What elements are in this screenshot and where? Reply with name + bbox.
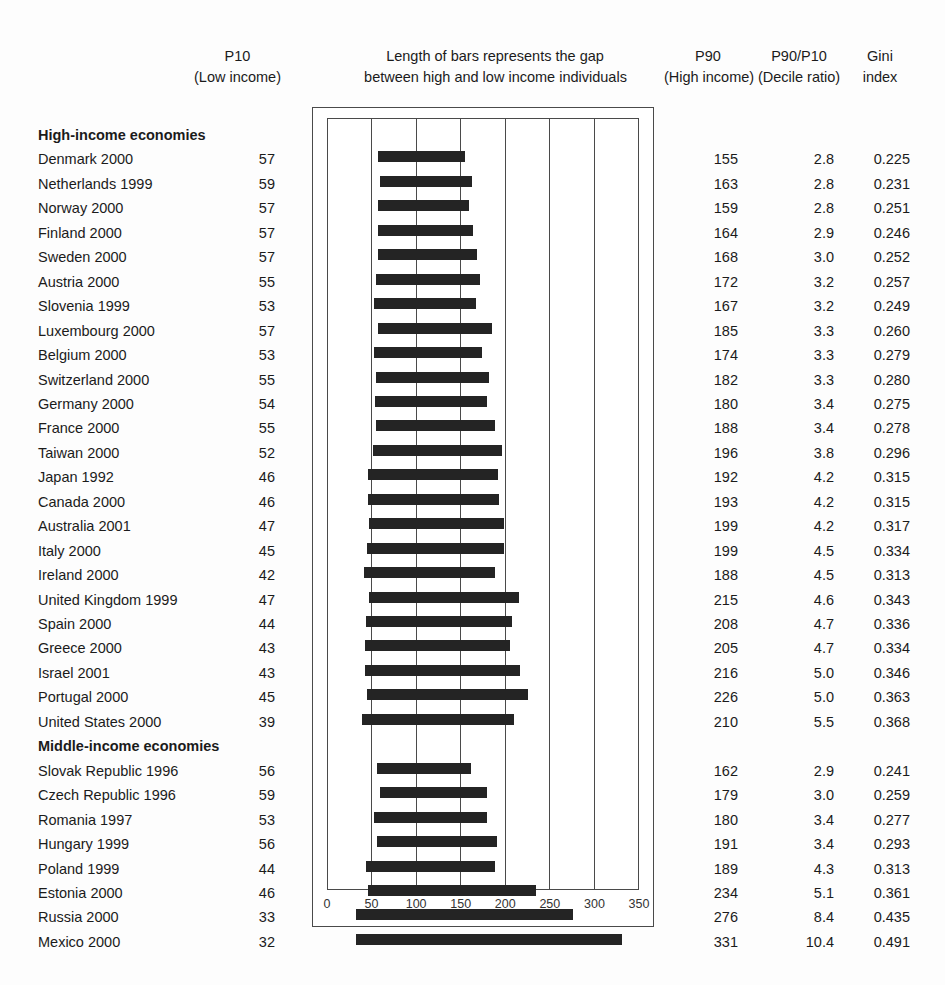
cell-gini-index: 0.252 — [848, 250, 910, 265]
cell-p10: 39 — [200, 715, 275, 730]
cell-gini-index: 0.231 — [848, 177, 910, 192]
cell-decile-ratio: 3.2 — [762, 275, 834, 290]
bar-range — [378, 225, 473, 236]
bar-range — [376, 372, 489, 383]
cell-p10: 46 — [200, 470, 275, 485]
cell-gini-index: 0.225 — [848, 152, 910, 167]
cell-decile-ratio: 3.3 — [762, 373, 834, 388]
cell-p90: 331 — [680, 935, 738, 950]
cell-gini-index: 0.313 — [848, 568, 910, 583]
cell-decile-ratio: 5.0 — [762, 666, 834, 681]
cell-p10: 42 — [200, 568, 275, 583]
cell-decile-ratio: 2.8 — [762, 177, 834, 192]
cell-p90: 188 — [680, 568, 738, 583]
cell-p10: 33 — [200, 910, 275, 925]
cell-decile-ratio: 4.6 — [762, 593, 834, 608]
cell-decile-ratio: 5.5 — [762, 715, 834, 730]
cell-gini-index: 0.280 — [848, 373, 910, 388]
cell-gini-index: 0.296 — [848, 446, 910, 461]
cell-p10: 57 — [200, 250, 275, 265]
cell-decile-ratio: 3.4 — [762, 813, 834, 828]
cell-gini-index: 0.363 — [848, 690, 910, 705]
header-middle-line1: Length of bars represents the gap — [330, 48, 660, 65]
cell-p90: 164 — [680, 226, 738, 241]
gridline-300 — [594, 118, 595, 890]
cell-decile-ratio: 10.4 — [762, 935, 834, 950]
cell-p90: 179 — [680, 788, 738, 803]
bar-range — [376, 274, 480, 285]
header-p90-line1: P90 — [672, 48, 744, 65]
bar-range — [368, 494, 499, 505]
cell-decile-ratio: 3.4 — [762, 421, 834, 436]
cell-gini-index: 0.334 — [848, 641, 910, 656]
cell-decile-ratio: 3.3 — [762, 348, 834, 363]
cell-p10: 46 — [200, 886, 275, 901]
cell-p10: 57 — [200, 226, 275, 241]
cell-gini-index: 0.257 — [848, 275, 910, 290]
cell-gini-index: 0.491 — [848, 935, 910, 950]
bar-range — [368, 469, 498, 480]
header-middle-line2: between high and low income individuals — [318, 69, 673, 86]
cell-gini-index: 0.317 — [848, 519, 910, 534]
bar-range — [375, 396, 487, 407]
cell-p10: 43 — [200, 666, 275, 681]
cell-p10: 57 — [200, 201, 275, 216]
bar-range — [365, 665, 519, 676]
cell-p10: 55 — [200, 373, 275, 388]
cell-decile-ratio: 3.0 — [762, 250, 834, 265]
cell-decile-ratio: 4.7 — [762, 641, 834, 656]
bar-range — [380, 176, 473, 187]
cell-p10: 55 — [200, 275, 275, 290]
cell-p10: 32 — [200, 935, 275, 950]
cell-p10: 54 — [200, 397, 275, 412]
cell-p10: 52 — [200, 446, 275, 461]
cell-p90: 182 — [680, 373, 738, 388]
bar-range — [380, 787, 487, 798]
cell-p10: 45 — [200, 544, 275, 559]
cell-decile-ratio: 4.5 — [762, 544, 834, 559]
cell-decile-ratio: 2.9 — [762, 764, 834, 779]
cell-p10: 53 — [200, 299, 275, 314]
cell-gini-index: 0.249 — [848, 299, 910, 314]
x-tick-label-350: 350 — [619, 898, 659, 911]
cell-p10: 44 — [200, 617, 275, 632]
cell-gini-index: 0.435 — [848, 910, 910, 925]
bar-range — [364, 567, 494, 578]
cell-p90: 188 — [680, 421, 738, 436]
group-heading: High-income economies — [38, 128, 243, 143]
cell-p90: 205 — [680, 641, 738, 656]
bar-range — [374, 812, 487, 823]
cell-gini-index: 0.346 — [848, 666, 910, 681]
cell-gini-index: 0.315 — [848, 495, 910, 510]
header-gini-line1: Gini — [850, 48, 910, 65]
bar-range — [362, 714, 514, 725]
bar-range — [378, 151, 465, 162]
header-p10-line1: P10 — [200, 48, 275, 65]
bar-range — [376, 420, 495, 431]
cell-p90: 226 — [680, 690, 738, 705]
cell-p90: 180 — [680, 397, 738, 412]
cell-decile-ratio: 2.8 — [762, 201, 834, 216]
header-gini-line2: index — [850, 69, 910, 86]
figure-income-distribution: P10 (Low income) Length of bars represen… — [0, 0, 945, 985]
cell-p90: 172 — [680, 275, 738, 290]
cell-gini-index: 0.260 — [848, 324, 910, 339]
cell-decile-ratio: 8.4 — [762, 910, 834, 925]
cell-gini-index: 0.246 — [848, 226, 910, 241]
cell-decile-ratio: 2.8 — [762, 152, 834, 167]
cell-p90: 196 — [680, 446, 738, 461]
cell-p10: 46 — [200, 495, 275, 510]
cell-gini-index: 0.315 — [848, 470, 910, 485]
bar-range — [369, 592, 519, 603]
cell-decile-ratio: 3.2 — [762, 299, 834, 314]
cell-p90: 276 — [680, 910, 738, 925]
cell-gini-index: 0.293 — [848, 837, 910, 852]
bar-range — [377, 836, 497, 847]
cell-gini-index: 0.275 — [848, 397, 910, 412]
cell-gini-index: 0.259 — [848, 788, 910, 803]
header-p90-line2: (High income) — [660, 69, 758, 86]
cell-decile-ratio: 4.7 — [762, 617, 834, 632]
cell-p10: 56 — [200, 764, 275, 779]
header-ratio-line2: (Decile ratio) — [752, 69, 846, 86]
x-tick-label-300: 300 — [574, 898, 614, 911]
